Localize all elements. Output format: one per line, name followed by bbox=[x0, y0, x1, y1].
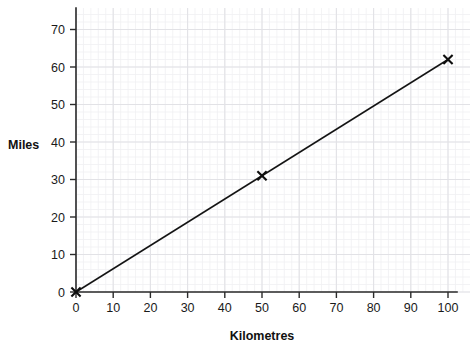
x-tick-label: 60 bbox=[292, 301, 306, 315]
x-tick-label: 30 bbox=[181, 301, 195, 315]
y-tick-label: 50 bbox=[51, 98, 65, 112]
y-tick-label: 10 bbox=[51, 248, 65, 262]
chart-page: 010203040506070 0102030405060708090100 M… bbox=[0, 0, 470, 347]
x-tick-label: 10 bbox=[106, 301, 120, 315]
y-tick-label: 40 bbox=[51, 136, 65, 150]
x-tick-label: 70 bbox=[329, 301, 343, 315]
x-tick-label: 20 bbox=[143, 301, 157, 315]
major-gridlines bbox=[76, 8, 470, 292]
y-axis-title: Miles bbox=[8, 138, 39, 152]
axis-lines bbox=[76, 8, 457, 292]
y-tick-label: 20 bbox=[51, 211, 65, 225]
y-tick-label: 60 bbox=[51, 61, 65, 75]
x-axis-title: Kilometres bbox=[230, 329, 295, 343]
conversion-graph: 010203040506070 0102030405060708090100 M… bbox=[0, 0, 470, 347]
x-tick-label: 80 bbox=[367, 301, 381, 315]
y-axis-ticks: 010203040506070 bbox=[51, 23, 76, 300]
x-tick-label: 0 bbox=[73, 301, 80, 315]
y-tick-label: 70 bbox=[51, 23, 65, 37]
y-tick-label: 0 bbox=[58, 286, 65, 300]
y-tick-label: 30 bbox=[51, 173, 65, 187]
x-tick-label: 90 bbox=[404, 301, 418, 315]
x-tick-label: 40 bbox=[218, 301, 232, 315]
x-axis-ticks: 0102030405060708090100 bbox=[73, 292, 459, 315]
x-tick-label: 100 bbox=[438, 301, 459, 315]
x-tick-label: 50 bbox=[255, 301, 269, 315]
